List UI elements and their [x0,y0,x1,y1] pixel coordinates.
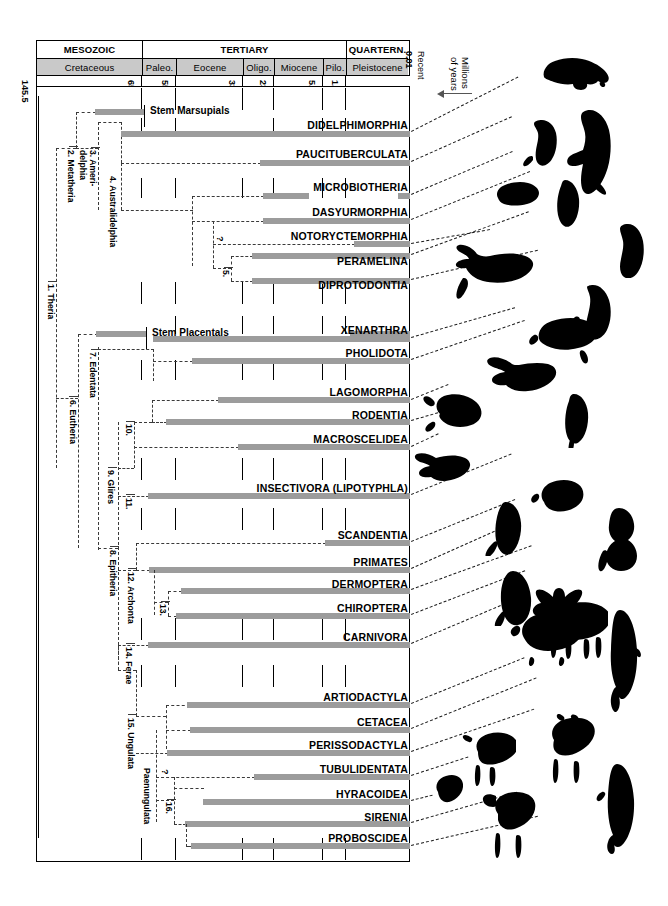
branch-eutheria-vertical [78,334,79,548]
branch-paenungulata-vertical [156,730,157,822]
silhouette-rodent-icon [554,390,594,448]
taxon-label-proboscidea: PROBOSCIDEA [180,832,408,844]
silhouette-whale-icon [598,608,642,712]
taxon-label-insectivora: INSECTIVORA (LIPOTYPHLA) [170,482,408,494]
taxon-label-peramelina: PERAMELINA [180,255,408,267]
branch-to-metatheria [56,148,76,149]
silhouette-quoll-icon [492,178,540,216]
era-tertiary: TERTIARY [142,41,346,58]
branch-glires-vertical [134,422,135,468]
branch-node10-vertical [152,400,153,422]
tick-mark [345,76,346,86]
axis-label-line1: Millions [459,57,470,91]
grid-tick [322,88,323,110]
bar-dasyurmorphia [263,218,410,224]
tick-label-recent-value: 0.01 [404,51,414,69]
silhouette-shrew-opossum-icon [522,118,564,170]
node-2-metatheria-label: 2. Metatheria [66,150,76,203]
period-eocene: Eocene [176,58,243,75]
grid-tick [322,508,323,530]
branch-pholidota [153,361,193,362]
taxon-label-xenarthra: XENARTHRA [180,324,408,336]
question-mark-tubulidentata: ? [160,769,170,775]
taxon-label-perissodactyla: PERISSODACTYLA [180,739,408,751]
taxon-label-scandentia: SCANDENTIA [180,529,408,541]
grid-tick [175,618,176,640]
grid-tick [175,178,176,198]
grid-tick [141,360,142,380]
tick-mark [242,76,243,86]
bar-stem-placentals [96,331,147,337]
tick-mark [175,76,176,86]
branch-archonta-vertical [136,543,137,570]
silhouette-rabbit-icon [422,392,488,438]
grid-tick [242,665,243,687]
branch-metatheria-vertical [76,112,77,148]
branch-dermoptera [168,591,182,592]
grid-tick [345,665,346,687]
silhouette-bandicoot-icon [453,238,537,302]
grid-tick [141,282,142,304]
node-14-ferae-label: 14. Ferae [124,647,134,684]
bar-microbiotheria-part2 [398,193,410,199]
node-10-tick [126,421,135,422]
branch-ungulata-main [136,670,137,716]
leader-line-cetacea [411,677,537,728]
grid-tick [322,458,323,480]
branch-to-eutheria [56,398,78,399]
taxon-label-paucituberculata: PAUCITUBERCULATA [180,148,408,160]
branch-notoryctemorphia [213,244,355,245]
stem-placentals-endline [146,327,147,349]
grid-tick [141,458,142,480]
grid-tick [242,508,243,530]
taxon-label-tubulidentata: TUBULIDENTATA [180,763,408,775]
axis-label-millions: Millions of years [449,57,470,91]
node-5-tick [224,267,233,268]
node-16-label: 16. [164,802,174,814]
grid-tick [175,360,176,380]
grid-tick [175,282,176,304]
node-8-epitheria-label: 8. Epitheria [108,550,118,596]
taxon-label-sirenia: SIRENIA [180,811,408,823]
taxon-label-macroscelidea: MACROSCELIDEA [180,433,408,445]
taxon-label-primates: PRIMATES [180,556,408,568]
grid-tick [141,665,142,687]
grid-tick [242,88,243,110]
figure-root: MESOZOIC TERTIARY QUARTERN. Cretaceous P… [0,0,668,906]
grid-tick [273,508,274,530]
tick-mark [273,76,274,86]
silhouette-marsupial-mole-icon [548,178,582,228]
taxon-label-carnivora: CARNIVORA [180,631,408,643]
silhouette-perissodactyl-icon [462,728,516,790]
leader-line-xenarthra [411,307,515,338]
branch-node16-vertical [174,777,175,824]
node-9-tick [108,467,117,468]
grid-tick [175,508,176,530]
node-9-glires-label: 9. Glires [106,470,116,504]
node-1-tick [48,281,57,282]
era-quaternary: QUARTERN. [346,41,408,58]
node-4-australidelphia-label: 4. Australidelphia [108,176,118,247]
branch-to-epitheria [98,548,118,549]
silhouette-sirenian-icon [596,762,638,854]
tick-label-145-5: 145.5 [20,80,30,103]
branch-cetartiodactyla-vertical [166,705,167,749]
root-axis-line [38,96,39,838]
branch-to-archonta [118,570,136,571]
bar-xenarthra [153,336,410,342]
taxon-label-hyracoidea: HYRACOIDEA [180,788,408,800]
taxon-label-dermoptera: DERMOPTERA [180,578,408,590]
grid-tick [175,458,176,480]
node-1-theria-label: 1. Theria [46,284,56,319]
node-14-tick [126,643,135,644]
node-12-archonta-label: 12. Archonta [126,572,136,624]
branch-edentata-top [98,349,154,350]
branch-dasyurmorphia [192,221,264,222]
silhouette-pangolin-icon [482,352,566,394]
node-15-ungulata-label: 15. Ungulata [126,718,136,769]
branch-edentata-split [153,349,154,381]
recent-label: Recent [416,51,426,80]
taxon-label-cetacea: CETACEA [180,716,408,728]
node-3-tick [91,147,100,148]
bar-paucituberculata [260,160,410,166]
